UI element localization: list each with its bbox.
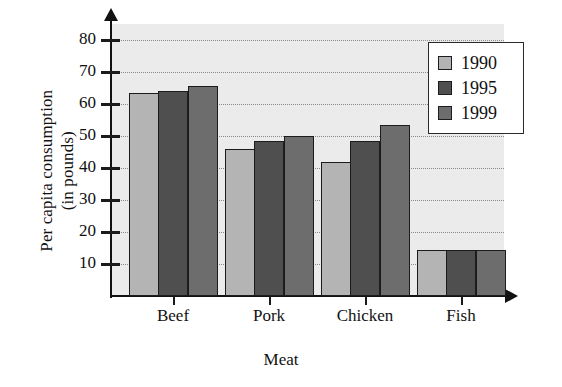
bar-fish-1990 [417,250,447,296]
legend: 1990 1995 1999 [428,42,524,134]
bar-fish-1995 [446,250,476,296]
bar-beef-1990 [129,93,159,296]
y-axis-tick [101,135,120,138]
bar-pork-1999 [284,136,314,296]
y-axis-tick-label: 70 [56,61,96,81]
bar-chicken-1995 [350,141,380,296]
y-axis-tick-label: 20 [56,221,96,241]
x-axis-arrow-icon [505,289,518,303]
x-axis-title: Meat [0,350,562,370]
x-axis-tick [173,296,175,305]
y-axis-tick-label: 80 [56,29,96,49]
y-axis-tick-label: 10 [56,253,96,273]
legend-label-1995: 1995 [461,79,497,97]
x-axis-label-fish: Fish [401,306,521,326]
bar-beef-1995 [158,91,188,296]
y-axis-tick [101,71,120,74]
chart-figure: Per capita consumption (in pounds) 10203… [0,0,562,387]
y-axis-tick [101,231,120,234]
y-axis-tick-label: 50 [56,125,96,145]
y-axis-tick-label: 30 [56,189,96,209]
y-axis-tick [101,263,120,266]
legend-item: 1990 [438,50,515,75]
y-axis-tick [101,39,120,42]
bar-chicken-1990 [321,162,351,296]
y-axis-tick-label: 60 [56,93,96,113]
y-axis-tick-label: 40 [56,157,96,177]
x-axis-tick [461,296,463,305]
legend-item: 1995 [438,75,515,100]
legend-label-1999: 1999 [461,104,497,122]
bar-fish-1999 [476,250,506,296]
x-axis-tick [269,296,271,305]
bar-pork-1990 [225,149,255,296]
gridline [112,40,504,41]
y-axis-arrow-icon [104,8,118,21]
legend-swatch-1995 [438,81,452,95]
legend-label-1990: 1990 [461,54,497,72]
y-axis-title-line1: Per capita consumption [37,90,56,252]
bar-pork-1995 [254,141,284,296]
legend-item: 1999 [438,100,515,125]
y-axis-tick [101,103,120,106]
bar-beef-1999 [188,86,218,296]
y-axis-tick [101,199,120,202]
bar-chicken-1999 [380,125,410,296]
y-axis-tick [101,167,120,170]
legend-swatch-1990 [438,56,452,70]
legend-swatch-1999 [438,106,452,120]
x-axis-tick [365,296,367,305]
y-axis-line [110,18,112,298]
